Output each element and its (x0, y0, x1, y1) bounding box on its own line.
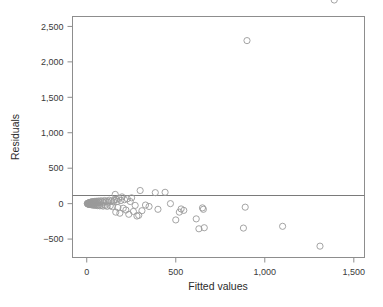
y-tick-label: 2,500 (41, 22, 64, 32)
y-tick-label: 0 (58, 199, 63, 209)
x-tick-label: 1,500 (343, 267, 366, 277)
data-point (280, 223, 286, 229)
x-axis-ticks: 05001,0001,500 (84, 258, 365, 277)
data-point (155, 206, 161, 212)
data-point (139, 208, 145, 214)
y-tick-label: 1,500 (41, 93, 64, 103)
y-axis-ticks: −50005001,0001,5002,0002,500 (41, 22, 73, 245)
y-tick-label: 2,000 (41, 57, 64, 67)
y-tick-label: −500 (43, 234, 63, 244)
data-point (317, 243, 323, 249)
data-point (240, 225, 246, 231)
data-point (137, 187, 143, 193)
data-point (193, 216, 199, 222)
plot-frame (73, 17, 365, 258)
data-point (162, 189, 168, 195)
data-point (146, 203, 152, 209)
residual-plot-figure: −50005001,0001,5002,0002,500 05001,0001,… (0, 0, 383, 307)
x-tick-label: 0 (84, 267, 89, 277)
data-point (167, 201, 173, 207)
data-point (152, 190, 158, 196)
data-point (244, 38, 250, 44)
data-point (132, 202, 138, 208)
x-tick-label: 1,000 (254, 267, 277, 277)
data-point (242, 204, 248, 210)
data-point (173, 217, 179, 223)
data-point (142, 202, 148, 208)
y-tick-label: 1,000 (41, 128, 64, 138)
data-point (331, 0, 337, 3)
x-axis-title: Fitted values (188, 280, 248, 292)
y-tick-label: 500 (48, 163, 63, 173)
scatter-plot-canvas: −50005001,0001,5002,0002,500 05001,0001,… (0, 0, 383, 307)
data-point-group (84, 0, 337, 249)
y-axis-title: Residuals (9, 114, 21, 160)
x-tick-label: 500 (168, 267, 183, 277)
